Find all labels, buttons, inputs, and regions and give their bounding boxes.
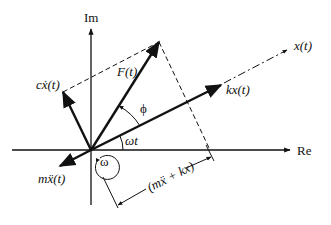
phasor-diagram: Re Im x(t) kx(t) F(t) cẋ(t) mẍ(t) ωt ϕ [0,0,331,225]
spring-force-label: kx(t) [226,82,250,97]
imag-axis-label: Im [84,10,98,25]
real-axis-label: Re [297,143,312,158]
omega-t-arc [120,136,123,150]
displacement-label: x(t) [293,38,312,53]
damping-force-label: cẋ(t) [36,77,60,92]
phi-label: ϕ [140,101,147,116]
applied-force-label: F(t) [116,64,137,79]
dimension-label: (mẍ + kx) [145,158,197,194]
displacement-vector [224,50,287,83]
phi-arc [119,106,140,126]
omega-t-label: ωt [125,133,138,148]
damping-force-vector [63,92,91,150]
inertia-force-label: mẍ(t) [38,171,65,186]
inertia-force-vector [60,150,91,166]
omega-label: ω [100,154,109,169]
